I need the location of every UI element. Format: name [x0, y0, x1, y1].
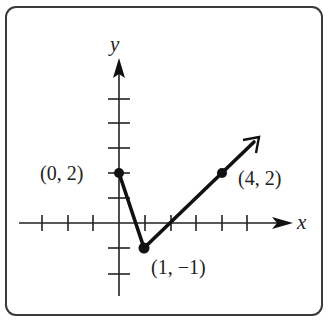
point-0-2: [114, 168, 124, 178]
function-graph: [114, 137, 259, 254]
point-label-4-2: (4, 2): [238, 168, 281, 188]
point-label-1-neg1: (1, −1): [151, 257, 206, 277]
point-4-2: [217, 168, 227, 178]
point-label-0-2: (0, 2): [40, 163, 83, 183]
x-axis: [19, 215, 293, 231]
point-1-neg1: [139, 243, 150, 254]
x-axis-label: x: [297, 212, 306, 233]
y-axis-label: y: [110, 34, 119, 55]
